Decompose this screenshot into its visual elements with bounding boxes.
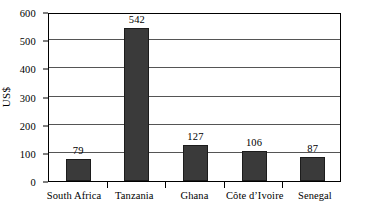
y-axis-tick-labels: 0100200300400500600 (0, 0, 44, 220)
bar-column: 106 (225, 14, 284, 181)
y-axis-tick-label: 200 (20, 120, 36, 131)
bar-column: 87 (283, 14, 342, 181)
x-axis-tick-mark (165, 182, 166, 188)
bar-value-label: 79 (73, 145, 84, 156)
x-axis-tick-mark (107, 182, 108, 188)
plot-area: 7954212710687 (48, 13, 341, 182)
x-axis-tick-marks (48, 182, 341, 188)
bar-column: 127 (166, 14, 225, 181)
x-axis-tick-labels: South AfricaTanzaniaGhanaCôte d’IvoireSe… (44, 190, 345, 212)
bar[interactable]: 87 (300, 157, 325, 182)
x-axis-category-label: Senegal (285, 190, 345, 212)
x-axis-tick-mark (282, 182, 283, 188)
bar-column: 79 (49, 14, 108, 181)
bar-column: 542 (108, 14, 167, 181)
x-axis-tick-mark (224, 182, 225, 188)
x-axis-category-label: Côte d’Ivoire (225, 190, 285, 212)
y-axis-tick-label: 300 (20, 92, 36, 103)
y-axis-tick-label: 0 (31, 177, 36, 188)
bar[interactable]: 79 (66, 159, 91, 181)
bar-value-label: 127 (187, 131, 203, 142)
bar-value-label: 542 (129, 14, 145, 25)
x-axis-category-label: Ghana (164, 190, 224, 212)
bar-value-label: 106 (246, 137, 262, 148)
y-axis-tick-label: 600 (20, 8, 36, 19)
x-axis-category-label: Tanzania (104, 190, 164, 212)
bar-value-label: 87 (307, 143, 318, 154)
bar[interactable]: 127 (183, 145, 208, 181)
y-axis-tick-label: 100 (20, 148, 36, 159)
x-axis-category-label: South Africa (44, 190, 104, 212)
bar[interactable]: 106 (242, 151, 267, 181)
y-axis-tick-label: 400 (20, 64, 36, 75)
y-axis-tick-label: 500 (20, 36, 36, 47)
bar[interactable]: 542 (124, 28, 149, 181)
bar-chart: US$ 0100200300400500600 7954212710687 So… (0, 0, 366, 220)
